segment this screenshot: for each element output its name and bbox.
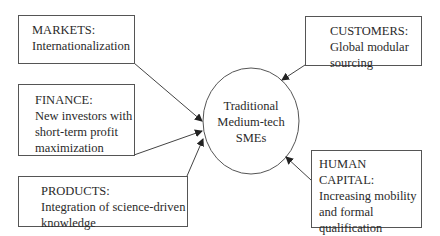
box-human-capital: HUMAN CAPITAL: Increasing mobility and f… bbox=[311, 150, 422, 228]
box-markets: MARKETS: Internationalization bbox=[18, 15, 135, 64]
arrow-products bbox=[187, 139, 203, 176]
box-text: New investors with short-term profit max… bbox=[35, 108, 134, 156]
box-heading: HUMAN CAPITAL: bbox=[319, 156, 421, 188]
box-heading: PRODUCTS: bbox=[41, 183, 187, 199]
arrow-markets bbox=[134, 63, 202, 121]
box-products: PRODUCTS: Integration of science-driven … bbox=[18, 176, 188, 227]
box-text: Integration of science-driven knowledge bbox=[41, 199, 187, 231]
box-heading: MARKETS: bbox=[32, 22, 134, 38]
arrow-customers bbox=[282, 65, 305, 80]
box-heading: CUSTOMERS: bbox=[330, 23, 421, 39]
box-text: Global modular sourcing bbox=[330, 39, 421, 71]
box-customers: CUSTOMERS: Global modular sourcing bbox=[305, 16, 422, 66]
box-text: Increasing mobility and formal qualifica… bbox=[319, 188, 421, 236]
box-finance: FINANCE: New investors with short-term p… bbox=[18, 84, 135, 156]
center-label: Traditional Medium-tech SMEs bbox=[203, 98, 299, 146]
arrow-human-capital bbox=[286, 157, 311, 180]
box-text: Internationalization bbox=[32, 38, 134, 54]
arrow-finance bbox=[134, 131, 202, 155]
box-heading: FINANCE: bbox=[35, 92, 134, 108]
